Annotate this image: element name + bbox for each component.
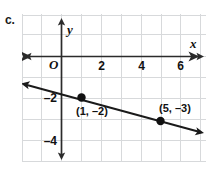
data-point-2-label: (5, –3) [159, 102, 191, 114]
x-axis-label: x [189, 36, 197, 51]
x-tick-label-6: 6 [177, 59, 184, 73]
data-point-1-label: (1, –2) [76, 105, 108, 117]
origin-label: O [49, 57, 59, 72]
graph-figure: c. [0, 0, 214, 171]
coordinate-plane: y x O 2 4 6 –2 –4 (1, –2) (5, –3) [22, 14, 206, 162]
problem-item-label: c. [5, 14, 15, 26]
x-tick-label-4: 4 [138, 59, 145, 73]
data-point-1 [77, 93, 85, 101]
y-tick-label-minus4: –4 [44, 134, 58, 148]
x-tick-label-2: 2 [98, 59, 105, 73]
y-axis-label: y [65, 22, 73, 37]
data-point-2 [156, 117, 164, 125]
coordinate-plane-svg: y x O 2 4 6 –2 –4 (1, –2) (5, –3) [22, 14, 206, 162]
